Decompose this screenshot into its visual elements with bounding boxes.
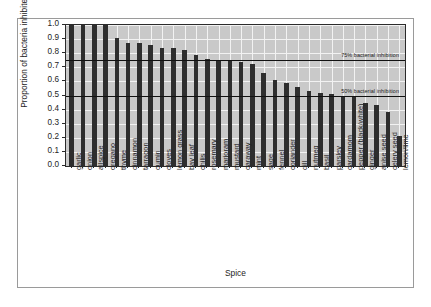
x-tick-label: lemon/lime [401,134,410,170]
x-tick-mark [251,165,252,168]
y-tick-label: 0.8 [48,47,59,56]
x-tick-mark [195,165,196,168]
x-tick-mark [150,165,151,168]
x-tick-mark [127,165,128,168]
x-tick-mark [308,165,309,168]
bar [261,73,266,166]
x-tick-mark [105,165,106,168]
y-tick-label: 0.6 [48,75,59,84]
threshold-label: 50% bacterial inhibition [341,88,399,94]
x-tick-mark [161,165,162,168]
y-tick-label: 0.2 [48,132,59,141]
x-tick-mark [71,165,72,168]
x-tick-mark [82,165,83,168]
y-tick-label: 0.5 [48,90,59,99]
threshold-line [66,96,405,97]
x-tick-mark [297,165,298,168]
x-tick-label: lemon grass [175,130,184,170]
x-axis-title: Spice [65,268,406,278]
x-tick-label: pepper (black/white) [356,103,365,170]
x-tick-mark [240,165,241,168]
x-tick-mark [138,165,139,168]
y-tick-label: 0.7 [48,61,59,70]
x-tick-mark [387,165,388,168]
x-tick-mark [353,165,354,168]
x-tick-mark [364,165,365,168]
x-tick-mark [376,165,377,168]
x-tick-mark [398,165,399,168]
x-tick-mark [285,165,286,168]
y-tick-label: 0.4 [48,104,59,113]
x-tick-mark [206,165,207,168]
x-tick-mark [274,165,275,168]
x-tick-mark [342,165,343,168]
y-tick-label: 0.0 [48,160,59,169]
x-tick-mark [172,165,173,168]
x-tick-mark [319,165,320,168]
y-tick-label: 1.0 [48,19,59,28]
x-tick-mark [93,165,94,168]
y-axis-title: Proportion of bacteria inhibited [19,0,29,121]
y-tick-label: 0.9 [48,33,59,42]
x-tick-mark [263,165,264,168]
x-tick-mark [229,165,230,168]
x-tick-mark [184,165,185,168]
x-tick-mark [116,165,117,168]
threshold-label: 75% bacterial inhibition [341,52,399,58]
x-tick-mark [218,165,219,168]
chart-figure: Proportion of bacteria inhibited 0.00.10… [0,0,431,307]
y-tick-label: 0.3 [48,118,59,127]
y-tick-label: 0.1 [48,146,59,155]
threshold-line [66,60,405,61]
x-tick-mark [331,165,332,168]
